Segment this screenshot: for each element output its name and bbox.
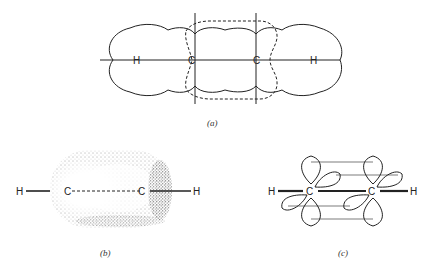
atom-c-left: C (64, 186, 71, 197)
atom-c-left: C (188, 55, 195, 66)
atom-h-left: H (133, 55, 140, 66)
p-orbital-lobe-down-left (302, 198, 321, 226)
atom-h-right: H (193, 186, 200, 197)
atom-h-left: H (268, 186, 275, 197)
p-orbital-lobe-up-right (364, 156, 383, 184)
caption-c: (c) (338, 248, 348, 258)
p-orbital-lobe-down-right (364, 198, 383, 226)
atom-c-left: C (306, 186, 313, 197)
atom-h-right: H (410, 186, 417, 197)
acetylene-bonding-figure: H C C H (a) H C C H (b) (0, 0, 430, 268)
caption-b: (b) (100, 248, 111, 258)
panel-a: H C C H (a) (100, 13, 342, 128)
atom-h-right: H (310, 55, 317, 66)
caption-a: (a) (207, 118, 218, 128)
p-orbital-lobe-up-left (302, 156, 321, 184)
panel-b: H C C H (b) (16, 150, 200, 258)
panel-c: H C C H (c) (268, 156, 417, 258)
atom-h-left: H (16, 186, 23, 197)
atom-c-right: C (368, 186, 375, 197)
atom-c-right: C (253, 55, 260, 66)
atom-c-right: C (138, 186, 145, 197)
